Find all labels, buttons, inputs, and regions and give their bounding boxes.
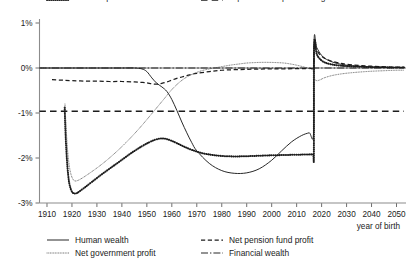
data-series-group (40, 34, 405, 193)
x-tick-label: 1980 (213, 210, 232, 219)
legend-label: Net pension fund profit (229, 235, 314, 245)
x-tick-label: 2020 (313, 210, 332, 219)
chart-plot-area: 1%0%-1%-2%-3% 19101920193019401950196019… (0, 0, 412, 266)
x-tick-label: 1960 (163, 210, 182, 219)
y-tick-label: -3% (18, 199, 33, 208)
legend-item: Equal consumption change (201, 0, 330, 2)
series-consumption (65, 39, 404, 193)
y-tick-label: 1% (21, 19, 33, 28)
x-tick-label: 1930 (88, 210, 107, 219)
x-tick-label: 1910 (38, 210, 57, 219)
y-tick-label: -2% (18, 154, 33, 163)
x-tick-label: 2000 (263, 210, 282, 219)
legend-label: Human wealth (75, 235, 129, 245)
x-tick-label: 2050 (387, 210, 406, 219)
series-net-pension-fund-profit (52, 44, 404, 84)
x-tick-label: 2040 (362, 210, 381, 219)
legend-item: Consumption (47, 0, 125, 2)
legend-label: Equal consumption change (229, 0, 330, 2)
x-axis-tick-labels: 1910192019301940195019601970198019902000… (38, 210, 406, 219)
legend-label: Consumption (75, 0, 125, 2)
x-tick-label: 1990 (238, 210, 257, 219)
chart-legend: Human wealthNet pension fund profitNet g… (47, 0, 330, 258)
x-tick-label: 2030 (337, 210, 356, 219)
legend-item: Financial wealth (201, 248, 289, 258)
x-tick-label: 2010 (288, 210, 307, 219)
legend-item: Human wealth (47, 235, 129, 245)
x-tick-label: 1970 (188, 210, 207, 219)
legend-item: Net pension fund profit (201, 235, 314, 245)
series-human-wealth (40, 34, 405, 173)
legend-label: Net government profit (75, 248, 156, 258)
axis-tickmarks (36, 23, 397, 207)
x-tick-label: 1920 (63, 210, 82, 219)
y-axis-tick-labels: 1%0%-1%-2%-3% (18, 19, 33, 208)
x-tick-label: 1940 (113, 210, 132, 219)
x-axis-title: year of birth (357, 222, 401, 231)
legend-label: Financial wealth (229, 248, 289, 258)
y-tick-label: -1% (18, 109, 33, 118)
y-tick-label: 0% (21, 64, 33, 73)
chart-container: 1%0%-1%-2%-3% 19101920193019401950196019… (0, 0, 412, 266)
legend-item: Net government profit (47, 248, 156, 258)
x-tick-label: 1950 (138, 210, 157, 219)
